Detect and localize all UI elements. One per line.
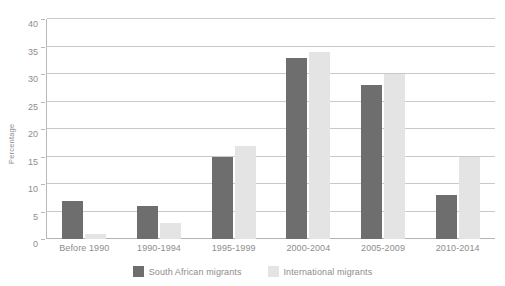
y-axis-tick-mark xyxy=(41,157,45,158)
bar xyxy=(160,223,181,240)
bar xyxy=(235,146,256,240)
y-axis-tick-mark xyxy=(41,184,45,185)
bar xyxy=(85,234,106,240)
bar-group xyxy=(122,19,197,239)
y-axis-tick-labels: 0510152025303540 xyxy=(0,19,45,239)
x-axis-tick-label: 2005-2009 xyxy=(346,243,421,253)
bar xyxy=(212,157,233,240)
x-axis-tick-labels: Before 19901990-19941995-19992000-200420… xyxy=(47,243,495,253)
legend-swatch xyxy=(268,266,279,277)
bar xyxy=(62,201,83,240)
legend-label: International migrants xyxy=(284,267,373,277)
bar xyxy=(309,52,330,239)
x-axis-tick-label: 2000-2004 xyxy=(271,243,346,253)
legend-swatch xyxy=(133,266,144,277)
y-axis-tick-mark xyxy=(41,102,45,103)
x-axis-tick-label: 1990-1994 xyxy=(122,243,197,253)
x-axis-tick-label: 2010-2014 xyxy=(420,243,495,253)
bar xyxy=(384,74,405,239)
bar xyxy=(436,195,457,239)
legend-entry: South African migrants xyxy=(133,266,242,277)
clipped-title-strip xyxy=(0,0,505,9)
bar-group xyxy=(196,19,271,239)
plot-area xyxy=(47,19,495,239)
bar xyxy=(459,157,480,240)
bar-group xyxy=(47,19,122,239)
y-axis-tick-mark xyxy=(41,47,45,48)
bar xyxy=(137,206,158,239)
bars-layer xyxy=(47,19,495,239)
x-axis-tick-label: Before 1990 xyxy=(47,243,122,253)
bar xyxy=(286,58,307,240)
bar-group xyxy=(346,19,421,239)
legend-label: South African migrants xyxy=(149,267,242,277)
legend: South African migrantsInternational migr… xyxy=(0,266,505,277)
y-axis-tick-mark xyxy=(41,19,45,20)
bar-group xyxy=(271,19,346,239)
legend-entry: International migrants xyxy=(268,266,373,277)
y-axis-tick-mark xyxy=(41,74,45,75)
bar-group xyxy=(420,19,495,239)
y-axis-tick-mark xyxy=(41,212,45,213)
x-axis-tick-label: 1995-1999 xyxy=(196,243,271,253)
y-axis-tick-mark xyxy=(41,239,45,240)
y-axis-tick-mark xyxy=(41,129,45,130)
bar-chart-figure: Percentage 0510152025303540 Before 19901… xyxy=(0,0,505,286)
bar xyxy=(361,85,382,239)
